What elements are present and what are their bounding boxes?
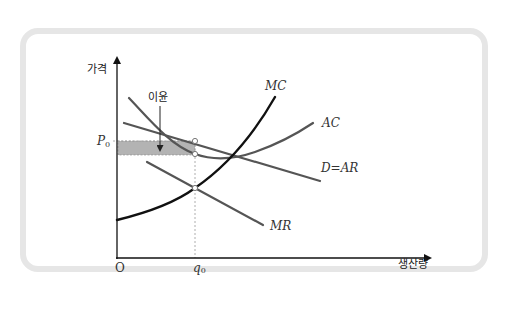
ac-label: AC xyxy=(321,116,340,130)
mc-curve xyxy=(117,97,275,220)
demand-point-marker xyxy=(192,138,197,143)
mr-curve xyxy=(147,162,263,225)
p0-label: P0 xyxy=(96,134,110,149)
mr-label: MR xyxy=(269,219,291,233)
q0-label: q0 xyxy=(193,261,206,275)
demand-label: D=AR xyxy=(320,161,358,175)
y-axis-label: 가격 xyxy=(87,63,107,76)
p0-subscript: 0 xyxy=(105,140,110,149)
mc-mr-intersection-marker xyxy=(192,185,197,190)
monopoly-diagram: 가격 생산량 O 이윤 P0 q0 MC AC D=AR MR xyxy=(0,0,521,314)
x-axis-label: 생산량 xyxy=(398,258,428,271)
mc-label: MC xyxy=(264,79,286,93)
profit-label: 이윤 xyxy=(148,91,168,104)
origin-label: O xyxy=(115,261,125,275)
ac-point-marker xyxy=(192,151,197,156)
q0-subscript: 0 xyxy=(201,266,206,275)
